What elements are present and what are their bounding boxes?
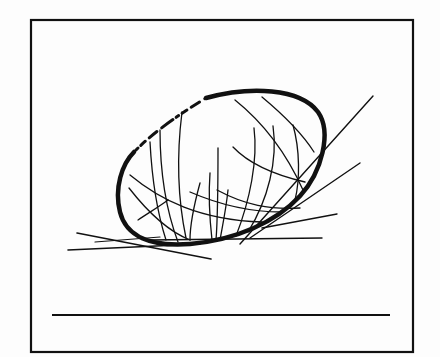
line-drawing (0, 0, 440, 357)
frame-border (31, 20, 413, 352)
figure-canvas: Line drawing of a tilted ellipse (egg/co… (0, 0, 440, 357)
ellipse-sketch (68, 91, 373, 259)
